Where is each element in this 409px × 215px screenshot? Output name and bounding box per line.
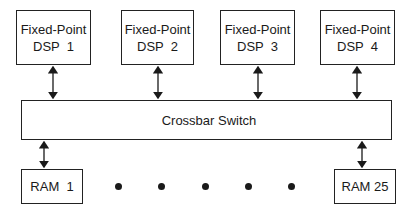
dsp-1-type: Fixed-Point bbox=[21, 21, 87, 38]
dsp-1-label: DSP 1 bbox=[33, 38, 74, 55]
crossbar-switch-box: Crossbar Switch bbox=[21, 100, 392, 140]
dsp-2-label: DSP 2 bbox=[137, 38, 178, 55]
dsp-4-type: Fixed-Point bbox=[325, 21, 391, 38]
dsp-2-type: Fixed-Point bbox=[125, 21, 191, 38]
dsp-4-box: Fixed-Point DSP 4 bbox=[320, 10, 395, 65]
ram-25-label: RAM 25 bbox=[342, 178, 389, 195]
ram-25-box: RAM 25 bbox=[334, 169, 396, 204]
dsp-1-box: Fixed-Point DSP 1 bbox=[16, 10, 91, 65]
ellipsis-dot bbox=[158, 183, 165, 190]
ellipsis-dot bbox=[202, 183, 209, 190]
dsp-3-type: Fixed-Point bbox=[225, 21, 291, 38]
dsp-2-box: Fixed-Point DSP 2 bbox=[121, 10, 194, 65]
dsp-3-label: DSP 3 bbox=[237, 38, 278, 55]
crossbar-switch-label: Crossbar Switch bbox=[162, 113, 257, 128]
ellipsis-dot bbox=[115, 183, 122, 190]
dsp-3-box: Fixed-Point DSP 3 bbox=[220, 10, 295, 65]
dsp-4-label: DSP 4 bbox=[337, 38, 378, 55]
ram-1-box: RAM 1 bbox=[21, 169, 83, 204]
ram-1-label: RAM 1 bbox=[30, 178, 73, 195]
ellipsis-dot bbox=[288, 183, 295, 190]
ellipsis-dot bbox=[245, 183, 252, 190]
